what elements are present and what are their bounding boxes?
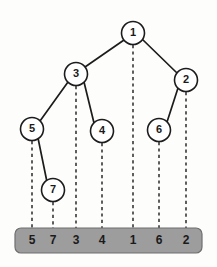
tree-node-label-6: 6 (156, 123, 162, 135)
array-cell-3: 4 (99, 233, 106, 247)
tree-node-label-7: 7 (50, 183, 56, 195)
tree-node-label-1: 1 (130, 26, 136, 38)
tree-edge-n5-n7 (38, 138, 47, 182)
tree-node-label-2: 2 (183, 73, 189, 85)
tree-node-label-5: 5 (29, 122, 35, 134)
array-cell-2: 3 (73, 233, 80, 247)
array-bar-group: 5734162 (15, 228, 202, 253)
array-cell-4: 1 (130, 233, 137, 247)
tree-node-label-3: 3 (73, 67, 79, 79)
tree-edge-n1-n3 (85, 40, 124, 67)
tree-edge-n3-n4 (84, 82, 94, 123)
array-cell-1: 7 (50, 233, 57, 247)
tree-edge-n1-n2 (142, 39, 177, 73)
diagram-canvas: 5734162 1325467 (0, 0, 217, 267)
tree-edges-group (38, 39, 178, 182)
tree-edge-n2-n6 (167, 88, 178, 122)
array-bar (15, 228, 202, 253)
tree-node-label-4: 4 (99, 124, 106, 136)
array-cell-6: 2 (183, 233, 190, 247)
array-cell-0: 5 (29, 233, 36, 247)
binary-tree-diagram: 5734162 1325467 (0, 0, 217, 267)
array-cell-5: 6 (156, 233, 163, 247)
tree-edge-n3-n5 (40, 82, 68, 121)
